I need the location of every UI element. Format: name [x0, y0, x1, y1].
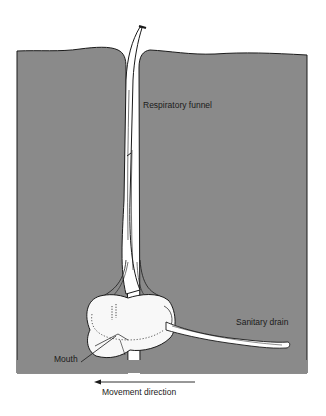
label-respiratory-funnel: Respiratory funnel: [143, 100, 212, 110]
burrow-diagram: [0, 0, 326, 416]
label-movement-direction: Movement direction: [102, 387, 176, 397]
movement-arrow: [94, 380, 195, 385]
label-sanitary-drain: Sanitary drain: [236, 317, 288, 327]
label-mouth: Mouth: [54, 354, 78, 364]
